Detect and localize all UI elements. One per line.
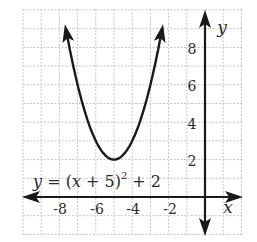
equation-label: y = (x + 5)2 + 2 [32,170,161,191]
y-tick-label: 6 [188,78,197,94]
y-tick-label: 8 [188,41,197,57]
x-tick-labels: -8 -6 -4 -2 [53,201,177,217]
y-axis-label: y [216,17,227,37]
x-tick-label: -6 [90,201,104,217]
x-tick-label: -2 [163,201,177,217]
y-axis [199,10,211,236]
graph-canvas: -8 -6 -4 -2 2 4 6 8 x y y = (x + 5)2 + 2 [0,0,257,242]
y-tick-labels: 2 4 6 8 [188,41,197,169]
y-tick-label: 4 [188,116,197,132]
x-axis-label: x [223,197,233,217]
parabola-graph: -8 -6 -4 -2 2 4 6 8 x y y = (x + 5)2 + 2 [0,0,257,242]
y-tick-label: 2 [188,153,197,169]
x-tick-label: -8 [53,201,67,217]
x-tick-label: -4 [126,201,140,217]
